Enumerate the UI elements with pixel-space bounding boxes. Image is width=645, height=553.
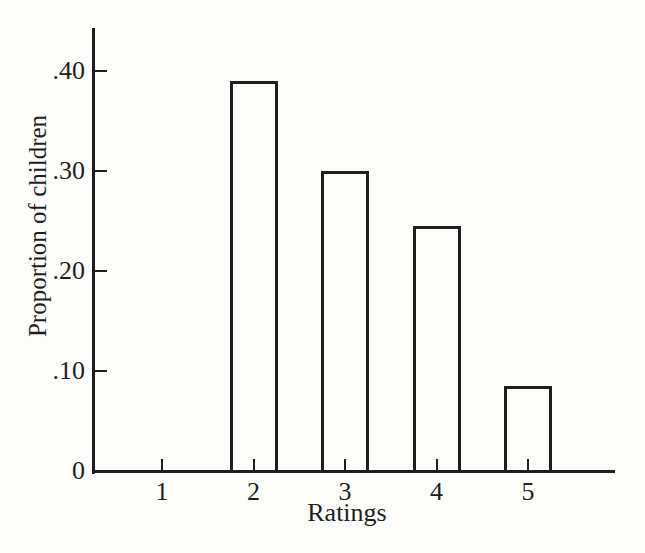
y-tick-label: .30 [27,156,85,186]
x-axis-line [92,470,615,473]
bar-rating-3 [321,171,369,471]
bar-rating-4 [413,226,461,471]
x-tick [436,459,438,471]
y-tick-label: .10 [27,356,85,386]
y-tick [95,270,107,272]
y-tick-label: .20 [27,256,85,286]
scanned-bar-chart-figure: Proportion of children 0.10.20.30.401234… [0,0,645,553]
y-axis-line [92,28,95,474]
y-tick-label: 0 [27,456,85,486]
x-tick [161,459,163,471]
x-axis-title: Ratings [247,498,447,528]
x-tick [344,459,346,471]
x-tick [253,459,255,471]
bar-rating-2 [230,81,278,471]
y-tick [95,370,107,372]
x-tick [527,459,529,471]
y-tick [95,70,107,72]
y-axis-title: Proportion of children [24,115,52,337]
y-tick-label: .40 [27,56,85,86]
x-tick-label: 1 [140,478,184,506]
x-tick-label: 5 [506,478,550,506]
y-tick [95,170,107,172]
